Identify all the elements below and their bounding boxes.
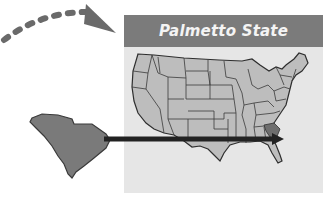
south-carolina-silhouette-icon	[30, 114, 110, 178]
dashed-curved-arrow-icon	[4, 4, 116, 40]
right-arrow-icon	[104, 133, 284, 145]
diagram-overlay	[0, 0, 327, 219]
